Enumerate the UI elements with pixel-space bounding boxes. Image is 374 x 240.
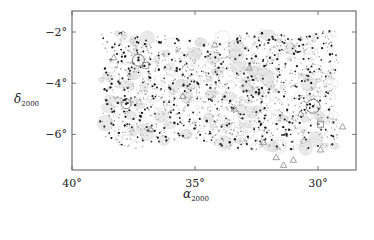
faint-source bbox=[302, 131, 303, 132]
source-point bbox=[287, 38, 289, 40]
faint-source bbox=[188, 101, 190, 103]
faint-source bbox=[229, 52, 230, 53]
source-point bbox=[251, 94, 253, 96]
faint-source bbox=[293, 85, 295, 87]
source-point bbox=[141, 112, 143, 114]
source-point bbox=[208, 73, 210, 75]
faint-source bbox=[252, 60, 253, 61]
faint-source bbox=[328, 90, 330, 92]
faint-source bbox=[136, 109, 137, 110]
faint-source bbox=[191, 87, 192, 88]
faint-source bbox=[248, 68, 250, 70]
source-point bbox=[171, 59, 173, 61]
faint-source bbox=[129, 75, 131, 77]
faint-source bbox=[311, 86, 312, 87]
source-point bbox=[131, 66, 133, 68]
faint-source bbox=[268, 76, 269, 77]
source-point bbox=[140, 66, 142, 68]
faint-source bbox=[126, 111, 128, 113]
faint-source bbox=[109, 117, 110, 118]
faint-source bbox=[214, 52, 215, 53]
density-contour bbox=[210, 124, 217, 128]
density-contour bbox=[158, 135, 169, 145]
source-point bbox=[283, 42, 285, 44]
faint-source bbox=[131, 39, 132, 40]
source-point bbox=[179, 121, 181, 123]
source-point bbox=[134, 96, 136, 98]
source-point bbox=[228, 87, 230, 89]
circled-source bbox=[137, 59, 139, 61]
faint-source bbox=[218, 58, 219, 59]
faint-source bbox=[223, 115, 224, 116]
source-point bbox=[309, 103, 311, 105]
source-point bbox=[221, 138, 223, 140]
faint-source bbox=[189, 69, 190, 70]
faint-source bbox=[237, 132, 239, 134]
source-point bbox=[182, 74, 184, 76]
faint-source bbox=[110, 75, 112, 77]
faint-source bbox=[213, 72, 214, 73]
source-point bbox=[221, 145, 223, 147]
source-point bbox=[136, 49, 138, 51]
source-point bbox=[102, 37, 104, 39]
source-point bbox=[255, 111, 257, 113]
density-contour bbox=[130, 131, 137, 136]
faint-source bbox=[116, 97, 118, 99]
source-point bbox=[154, 83, 156, 85]
faint-source bbox=[196, 126, 197, 127]
source-point bbox=[134, 104, 136, 106]
faint-source bbox=[112, 89, 113, 90]
faint-source bbox=[234, 104, 235, 105]
faint-source bbox=[187, 47, 188, 48]
source-point bbox=[286, 135, 288, 137]
density-contour bbox=[280, 84, 286, 90]
faint-source bbox=[224, 84, 225, 85]
faint-source bbox=[282, 114, 283, 115]
faint-source bbox=[126, 101, 128, 103]
triangle-marker bbox=[290, 157, 296, 162]
x-tick-label: 40° bbox=[62, 177, 82, 190]
faint-source bbox=[249, 125, 250, 126]
faint-source bbox=[332, 106, 333, 107]
source-point bbox=[252, 79, 254, 81]
faint-source bbox=[321, 117, 323, 119]
faint-source bbox=[115, 138, 117, 140]
faint-source bbox=[325, 78, 326, 79]
source-point bbox=[262, 60, 264, 62]
faint-source bbox=[280, 82, 281, 83]
faint-source bbox=[114, 50, 116, 52]
faint-source bbox=[336, 56, 337, 57]
faint-source bbox=[170, 101, 171, 102]
faint-source bbox=[291, 85, 292, 86]
faint-source bbox=[294, 105, 295, 106]
faint-source bbox=[330, 98, 331, 99]
source-point bbox=[307, 79, 309, 81]
faint-source bbox=[156, 126, 157, 127]
source-point bbox=[123, 51, 125, 53]
faint-source bbox=[246, 54, 247, 55]
faint-source bbox=[125, 82, 126, 83]
source-point bbox=[248, 100, 250, 102]
density-contour bbox=[327, 73, 333, 77]
source-point bbox=[243, 114, 245, 116]
faint-source bbox=[267, 61, 269, 63]
faint-source bbox=[307, 38, 308, 39]
faint-source bbox=[123, 139, 124, 140]
faint-source bbox=[138, 127, 139, 128]
faint-source bbox=[239, 102, 241, 104]
faint-source bbox=[318, 91, 319, 92]
source-point bbox=[303, 109, 305, 111]
source-point bbox=[219, 143, 221, 145]
faint-source bbox=[270, 119, 271, 120]
density-contour bbox=[141, 31, 155, 45]
density-contour bbox=[193, 96, 204, 102]
source-point bbox=[234, 58, 236, 60]
faint-source bbox=[291, 43, 292, 44]
faint-source bbox=[204, 64, 205, 65]
faint-source bbox=[297, 92, 298, 93]
faint-source bbox=[154, 80, 155, 81]
faint-source bbox=[111, 32, 112, 33]
faint-source bbox=[313, 94, 314, 95]
faint-source bbox=[217, 119, 219, 121]
faint-source bbox=[222, 86, 223, 87]
